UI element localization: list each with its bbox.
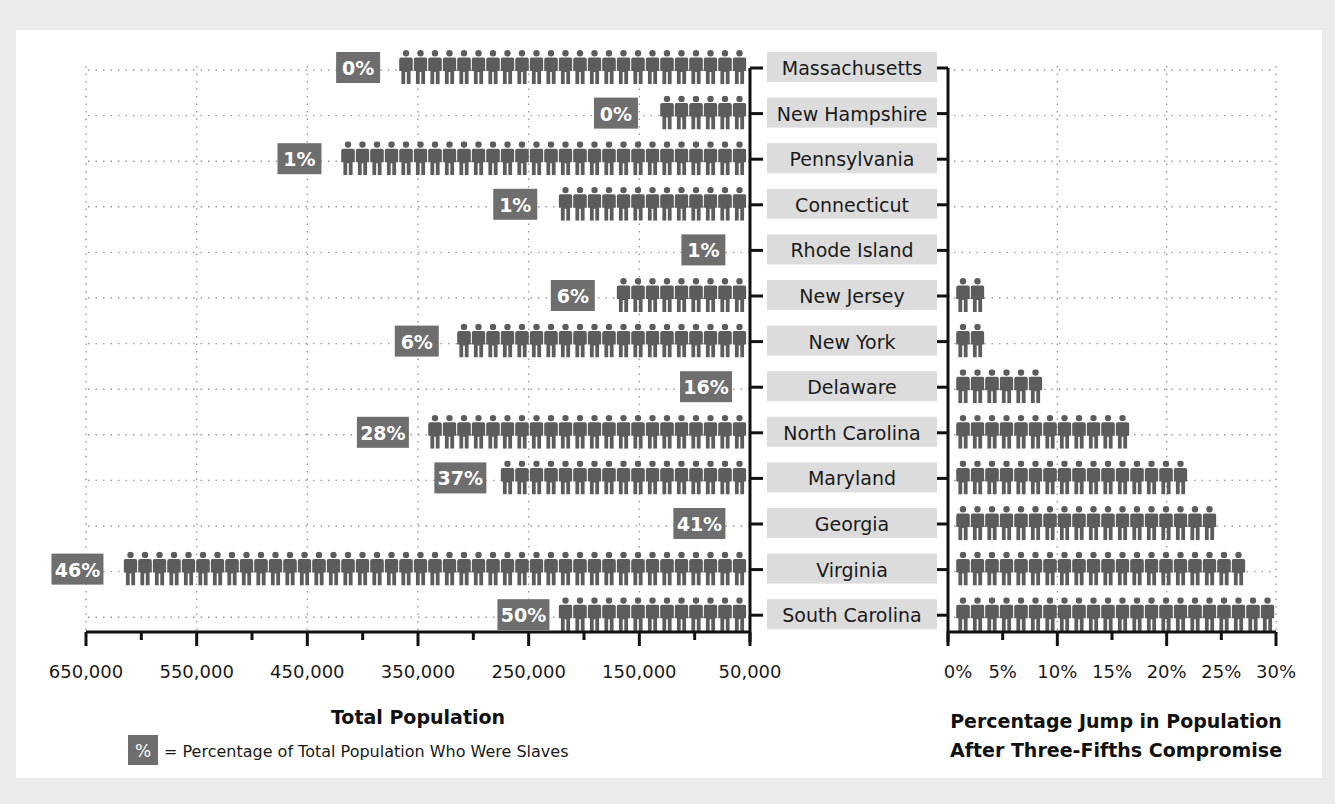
left-axis-title: Total Population — [331, 706, 505, 728]
person-icon — [211, 552, 225, 586]
person-icon — [225, 552, 239, 586]
person-icon-partial — [544, 187, 558, 221]
slave-percentage-badge: 1% — [277, 143, 321, 174]
state-label: Virginia — [767, 554, 937, 584]
person-icon — [617, 415, 631, 449]
person-icon — [617, 50, 631, 84]
person-icon — [559, 597, 573, 631]
jump-bar — [956, 278, 999, 312]
jump-bar — [956, 369, 1057, 403]
person-icon — [399, 141, 413, 175]
left-tick-label: 250,000 — [491, 661, 565, 682]
person-icon — [457, 50, 471, 84]
svg-text:37%: 37% — [438, 467, 483, 489]
person-icon — [588, 415, 602, 449]
person-icon — [1145, 461, 1159, 495]
person-icon — [1116, 415, 1130, 449]
person-icon — [602, 461, 616, 495]
person-icon — [631, 324, 645, 358]
left-tick-label: 650,000 — [49, 661, 123, 682]
right-tick-label: 20% — [1147, 661, 1187, 682]
person-icon — [1000, 506, 1014, 540]
person-icon — [646, 50, 660, 84]
legend: % = Percentage of Total Population Who W… — [128, 735, 568, 765]
person-icon — [559, 141, 573, 175]
slave-percentage-badge: 1% — [681, 234, 725, 265]
right-tick-label: 0% — [944, 661, 973, 682]
person-icon — [971, 415, 985, 449]
person-icon — [602, 141, 616, 175]
person-icon — [689, 50, 703, 84]
person-icon — [1029, 369, 1043, 403]
svg-text:6%: 6% — [401, 331, 433, 353]
person-icon — [1043, 415, 1057, 449]
person-icon — [985, 415, 999, 449]
person-icon — [457, 415, 471, 449]
person-icon-partial — [602, 278, 616, 312]
person-icon-partial — [956, 233, 970, 267]
person-icon — [501, 50, 515, 84]
person-icon-partial — [646, 96, 660, 130]
person-icon — [1116, 552, 1130, 586]
person-icon — [428, 552, 442, 586]
person-icon-partial — [327, 141, 341, 175]
person-icon — [559, 461, 573, 495]
person-icon — [428, 415, 442, 449]
person-icon — [573, 415, 587, 449]
person-icon — [457, 552, 471, 586]
population-bar — [733, 233, 747, 267]
person-icon — [956, 506, 970, 540]
person-icon — [486, 50, 500, 84]
population-bar — [486, 461, 746, 495]
state-label: North Carolina — [767, 417, 937, 447]
person-icon — [559, 415, 573, 449]
person-icon — [544, 324, 558, 358]
population-bar — [646, 96, 747, 130]
person-icon — [428, 141, 442, 175]
person-icon — [1174, 552, 1188, 586]
person-icon — [573, 597, 587, 631]
person-icon-partial — [414, 415, 428, 449]
person-icon — [486, 552, 500, 586]
person-icon — [646, 597, 660, 631]
person-icon — [472, 324, 486, 358]
right-axis-title-line2: After Three-Fifths Compromise — [950, 739, 1282, 761]
slave-percentage-badge: 28% — [357, 417, 409, 448]
person-icon — [631, 597, 645, 631]
person-icon — [515, 324, 529, 358]
right-tick-label: 30% — [1256, 661, 1296, 682]
person-icon — [1116, 506, 1130, 540]
person-icon — [501, 141, 515, 175]
person-icon — [985, 552, 999, 586]
svg-text:Connecticut: Connecticut — [795, 194, 909, 216]
person-icon — [1188, 597, 1202, 631]
person-icon — [1188, 506, 1202, 540]
person-icon — [443, 50, 457, 84]
person-icon — [124, 552, 138, 586]
person-icon — [704, 96, 718, 130]
person-icon — [1159, 552, 1173, 586]
person-icon — [1000, 415, 1014, 449]
person-icon — [718, 50, 732, 84]
person-icon — [956, 415, 970, 449]
person-icon — [370, 141, 384, 175]
person-icon — [689, 552, 703, 586]
person-icon — [675, 597, 689, 631]
person-icon — [1174, 461, 1188, 495]
person-icon — [660, 597, 674, 631]
jump-bar — [956, 415, 1129, 449]
person-icon — [1072, 506, 1086, 540]
person-icon — [588, 50, 602, 84]
person-icon — [733, 96, 747, 130]
person-icon — [617, 278, 631, 312]
person-icon — [327, 552, 341, 586]
person-icon — [1130, 597, 1144, 631]
person-icon — [617, 461, 631, 495]
person-icon — [414, 552, 428, 586]
person-icon — [660, 50, 674, 84]
person-icon — [559, 50, 573, 84]
slave-percentage-badge: 0% — [336, 52, 380, 83]
person-icon — [733, 50, 747, 84]
jump-bar — [956, 141, 970, 175]
person-icon — [573, 552, 587, 586]
